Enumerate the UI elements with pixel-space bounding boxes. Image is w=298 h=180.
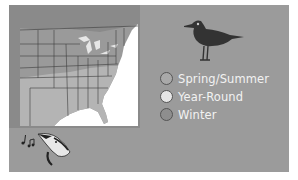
music-notes-icon <box>21 135 34 147</box>
legend: Spring/Summer Year-Round Winter <box>160 70 269 124</box>
legend-item-year-round: Year-Round <box>160 88 269 105</box>
legend-label: Spring/Summer <box>178 72 269 86</box>
range-map-graphic <box>20 16 138 126</box>
winter-swatch <box>160 108 173 121</box>
year-round-swatch <box>160 90 173 103</box>
legend-item-spring-summer: Spring/Summer <box>160 70 269 87</box>
legend-label: Year-Round <box>178 90 243 104</box>
legend-item-winter: Winter <box>160 106 269 123</box>
singing-bird-icon <box>18 130 74 166</box>
spring-summer-swatch <box>160 72 173 85</box>
legend-label: Winter <box>178 108 217 122</box>
range-map <box>20 16 138 126</box>
bird-silhouette-icon <box>182 16 244 64</box>
